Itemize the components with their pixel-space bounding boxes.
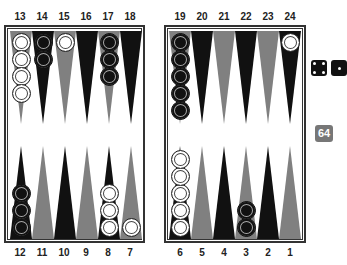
die-pip [313, 62, 316, 65]
black-checker[interactable] [171, 101, 190, 120]
white-checker[interactable] [171, 184, 190, 203]
black-checker[interactable] [12, 184, 31, 203]
point-triangle [191, 31, 213, 124]
point-triangle [76, 31, 98, 124]
point-11[interactable] [32, 146, 54, 239]
point-label-3: 3 [235, 247, 257, 258]
black-checker[interactable] [12, 218, 31, 237]
point-label-1: 1 [279, 247, 301, 258]
point-triangle [120, 31, 142, 124]
white-checker[interactable] [122, 218, 141, 237]
point-triangle [32, 146, 54, 239]
point-label-18: 18 [119, 11, 141, 22]
point-5[interactable] [191, 146, 213, 239]
white-checker[interactable] [281, 33, 300, 52]
point-label-22: 22 [235, 11, 257, 22]
white-checker[interactable] [100, 218, 119, 237]
white-checker[interactable] [12, 84, 31, 103]
white-checker[interactable] [100, 184, 119, 203]
black-checker[interactable] [237, 218, 256, 237]
point-triangle [54, 146, 76, 239]
point-triangle [76, 146, 98, 239]
die-2[interactable] [331, 60, 347, 76]
white-checker[interactable] [56, 33, 75, 52]
black-checker[interactable] [100, 67, 119, 86]
black-checker[interactable] [237, 201, 256, 220]
point-triangle [213, 31, 235, 124]
point-triangle [279, 146, 301, 239]
die-pip [338, 67, 341, 70]
die-pip [313, 71, 316, 74]
left-board [10, 31, 142, 239]
point-label-2: 2 [257, 247, 279, 258]
point-label-21: 21 [213, 11, 235, 22]
point-label-10: 10 [53, 247, 75, 258]
white-checker[interactable] [171, 150, 190, 169]
die-pip [322, 62, 325, 65]
point-label-9: 9 [75, 247, 97, 258]
die-1[interactable] [311, 60, 327, 76]
point-10[interactable] [54, 146, 76, 239]
point-label-19: 19 [169, 11, 191, 22]
point-9[interactable] [76, 146, 98, 239]
point-label-17: 17 [97, 11, 119, 22]
point-label-12: 12 [9, 247, 31, 258]
point-label-16: 16 [75, 11, 97, 22]
point-label-6: 6 [169, 247, 191, 258]
point-2[interactable] [257, 146, 279, 239]
point-triangle [213, 146, 235, 239]
white-checker[interactable] [100, 201, 119, 220]
point-label-14: 14 [31, 11, 53, 22]
black-checker[interactable] [12, 201, 31, 220]
point-label-5: 5 [191, 247, 213, 258]
point-triangle [235, 31, 257, 124]
point-triangle [257, 146, 279, 239]
point-23[interactable] [257, 31, 279, 124]
point-4[interactable] [213, 146, 235, 239]
point-21[interactable] [213, 31, 235, 124]
point-label-4: 4 [213, 247, 235, 258]
point-triangle [257, 31, 279, 124]
point-label-15: 15 [53, 11, 75, 22]
white-checker[interactable] [171, 167, 190, 186]
point-label-7: 7 [119, 247, 141, 258]
doubling-cube[interactable]: 64 [315, 125, 333, 142]
point-label-8: 8 [97, 247, 119, 258]
white-checker[interactable] [171, 218, 190, 237]
point-22[interactable] [235, 31, 257, 124]
point-label-11: 11 [31, 247, 53, 258]
point-1[interactable] [279, 146, 301, 239]
point-16[interactable] [76, 31, 98, 124]
point-20[interactable] [191, 31, 213, 124]
point-label-24: 24 [279, 11, 301, 22]
die-pip [322, 71, 325, 74]
white-checker[interactable] [171, 201, 190, 220]
point-label-23: 23 [257, 11, 279, 22]
point-triangle [191, 146, 213, 239]
point-label-20: 20 [191, 11, 213, 22]
black-checker[interactable] [34, 50, 53, 69]
point-18[interactable] [120, 31, 142, 124]
point-label-13: 13 [9, 11, 31, 22]
right-board [169, 31, 301, 239]
